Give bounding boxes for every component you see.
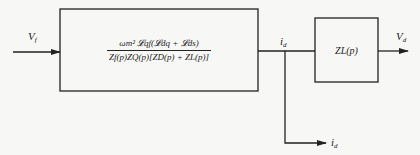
load-impedance-label: ZL(p): [315, 18, 378, 82]
branch-label-id: id: [331, 136, 338, 150]
fraction: ωm² 𝓛qf(𝓛dq + 𝓛ds) Zf(p)ZQ(p)[ZD(p) + ZL…: [107, 38, 211, 62]
input-label-vf: Vf: [28, 30, 37, 44]
denominator: Zf(p)ZQ(p)[ZD(p) + ZL(p)]: [107, 50, 211, 62]
transfer-function: ωm² 𝓛qf(𝓛dq + 𝓛ds) Zf(p)ZQ(p)[ZD(p) + ZL…: [60, 9, 258, 91]
output-label-vd: Vd: [396, 30, 406, 44]
intermediate-label-id: id: [280, 35, 287, 49]
numerator: ωm² 𝓛qf(𝓛dq + 𝓛ds): [117, 38, 200, 50]
